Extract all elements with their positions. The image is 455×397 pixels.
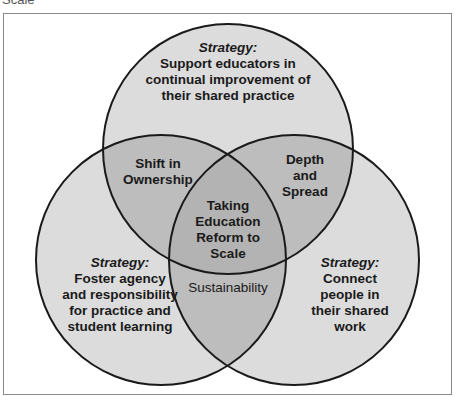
left-circle-line: Foster agency bbox=[50, 271, 190, 287]
right-circle-line: people in bbox=[295, 287, 405, 303]
overlap-line: Depth bbox=[270, 152, 340, 168]
left-circle-line: and responsibility bbox=[50, 287, 190, 303]
overlap-line: and bbox=[270, 168, 340, 184]
overlap-line: Ownership bbox=[108, 172, 208, 188]
right-circle-heading: Strategy: bbox=[295, 255, 405, 271]
overlap-top-left-label: Shift in Ownership bbox=[108, 156, 208, 188]
top-circle-line: their shared practice bbox=[128, 88, 328, 104]
overlap-left-right-label: Sustainability bbox=[178, 280, 278, 296]
right-circle-line: work bbox=[295, 319, 405, 335]
overlap-top-right-label: Depth and Spread bbox=[270, 152, 340, 200]
right-circle-line: their shared bbox=[295, 303, 405, 319]
right-circle-label: Strategy: Connect people in their shared… bbox=[295, 255, 405, 335]
center-line: Reform to bbox=[178, 230, 278, 246]
top-circle-line: continual improvement of bbox=[128, 72, 328, 88]
right-circle-line: Connect bbox=[295, 271, 405, 287]
overlap-line: Spread bbox=[270, 184, 340, 200]
top-circle-label: Strategy: Support educators in continual… bbox=[128, 40, 328, 104]
left-circle-label: Strategy: Foster agency and responsibili… bbox=[50, 255, 190, 335]
left-circle-line: student learning bbox=[50, 319, 190, 335]
center-line: Scale bbox=[178, 246, 278, 262]
top-circle-heading: Strategy: bbox=[128, 40, 328, 56]
left-circle-heading: Strategy: bbox=[50, 255, 190, 271]
overlap-center-label: Taking Education Reform to Scale bbox=[178, 198, 278, 262]
center-line: Education bbox=[178, 214, 278, 230]
left-circle-line: for practice and bbox=[50, 303, 190, 319]
overlap-line: Shift in bbox=[108, 156, 208, 172]
overlap-line: Sustainability bbox=[178, 280, 278, 296]
top-circle-line: Support educators in bbox=[128, 56, 328, 72]
center-line: Taking bbox=[178, 198, 278, 214]
